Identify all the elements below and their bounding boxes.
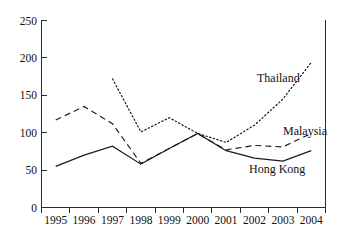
series-label-malaysia: Malaysia [283, 125, 327, 137]
caption-strip [0, 236, 348, 244]
x-axis-ticks [42, 208, 326, 213]
y-axis-tick-labels: 0 50 100 150 200 250 [20, 15, 38, 214]
x-tick-label-2003: 2003 [271, 214, 294, 226]
x-tick-label-2001: 2001 [215, 214, 238, 226]
x-tick-label-2002: 2002 [243, 214, 266, 226]
x-tick-label-2000: 2000 [186, 214, 209, 226]
y-tick-label-50: 50 [26, 164, 38, 176]
x-tick-label-1996: 1996 [73, 214, 96, 226]
y-tick-label-0: 0 [31, 202, 37, 214]
x-tick-label-1995: 1995 [44, 214, 67, 226]
series-line-malaysia [56, 107, 312, 164]
chart-axes [42, 20, 326, 208]
x-tick-label-1998: 1998 [129, 214, 152, 226]
line-chart: 0 50 100 150 200 250 1995 1996 1997 1 [0, 0, 348, 244]
y-tick-label-150: 150 [20, 89, 38, 101]
x-axis-tick-labels: 1995 1996 1997 1998 1999 2000 2001 2002 … [44, 214, 323, 226]
series-label-thailand: Thailand [257, 72, 300, 84]
y-tick-label-100: 100 [20, 127, 38, 139]
x-tick-label-2004: 2004 [300, 214, 323, 226]
x-tick-label-1999: 1999 [158, 214, 181, 226]
y-tick-label-250: 250 [20, 15, 38, 27]
series-label-hong-kong: Hong Kong [249, 163, 305, 175]
y-axis-ticks [42, 21, 47, 208]
figure-container: 0 50 100 150 200 250 1995 1996 1997 1 [0, 0, 348, 244]
x-tick-label-1997: 1997 [101, 214, 124, 226]
y-tick-label-200: 200 [20, 52, 38, 64]
